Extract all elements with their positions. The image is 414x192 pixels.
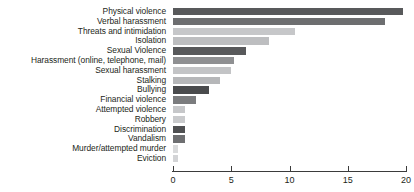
category-label: Eviction <box>0 154 170 164</box>
bar-chart: Physical violenceVerbal harassmentThreat… <box>0 0 414 192</box>
bar-row <box>173 144 406 154</box>
bar-row <box>173 85 406 95</box>
x-axis-tick <box>348 166 349 171</box>
bar-row <box>173 95 406 105</box>
bar <box>173 18 385 25</box>
bar <box>173 106 185 113</box>
x-axis-tick-label: 20 <box>401 175 411 185</box>
bar-row <box>173 115 406 125</box>
x-axis-tick-label: 5 <box>229 175 234 185</box>
x-axis-line <box>172 171 407 172</box>
bar <box>173 37 269 44</box>
bar-row <box>173 27 406 37</box>
x-axis-tick <box>406 166 407 171</box>
x-axis-tick-label: 10 <box>284 175 294 185</box>
bar <box>173 67 231 74</box>
bar <box>173 28 295 35</box>
bar <box>173 155 178 162</box>
bar <box>173 96 196 103</box>
bar <box>173 126 185 133</box>
plot-area <box>173 7 406 164</box>
x-axis-tick <box>231 166 232 171</box>
bar-row <box>173 46 406 56</box>
category-axis-labels: Physical violenceVerbal harassmentThreat… <box>0 7 170 164</box>
bar <box>173 8 403 15</box>
x-axis-tick <box>290 166 291 171</box>
bar <box>173 86 209 93</box>
bar-row <box>173 125 406 135</box>
bar <box>173 116 185 123</box>
bar <box>173 77 220 84</box>
bar <box>173 47 246 54</box>
bar-row <box>173 7 406 17</box>
bar <box>173 145 178 152</box>
bar-row <box>173 76 406 86</box>
bar-row <box>173 66 406 76</box>
bar-row <box>173 134 406 144</box>
bar <box>173 135 185 142</box>
x-axis-tick-label: 0 <box>170 175 175 185</box>
bar <box>173 57 234 64</box>
bar-row <box>173 105 406 115</box>
bar-row <box>173 154 406 164</box>
bar-row <box>173 17 406 27</box>
x-axis-tick <box>173 166 174 171</box>
bar-row <box>173 56 406 66</box>
x-axis-tick-label: 15 <box>343 175 353 185</box>
bar-row <box>173 36 406 46</box>
